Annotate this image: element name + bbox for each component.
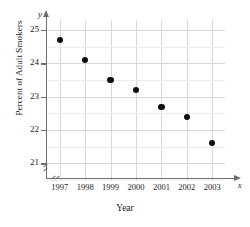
gridline-horizontal-minor [47,180,225,181]
gridline-vertical [136,20,137,180]
y-axis-tick [41,163,47,164]
gridline-horizontal-major [47,30,225,31]
y-axis-tick [41,130,47,131]
gridline-horizontal-major [47,97,225,98]
gridline-vertical [85,20,86,180]
gridline-horizontal-major [47,63,225,64]
x-axis-line [46,178,236,179]
y-axis-tick-label: 25 [24,24,39,34]
data-point [107,77,113,83]
x-axis-tick-label: 2003 [197,182,227,192]
data-point [184,114,190,120]
plot-area [47,20,225,180]
gridline-vertical [187,20,188,180]
data-point [57,37,63,43]
gridline-horizontal-minor [47,147,225,148]
y-axis-tick [41,63,47,64]
y-axis-tick [41,97,47,98]
x-axis-variable-label: x [238,181,242,190]
y-axis-title: Percent of Adult Smokers [14,0,24,138]
y-axis-variable-label: y [38,9,42,19]
scatter-plot-figure: Percent of Adult Smokers Year y x 252423… [0,0,250,227]
gridline-vertical [161,20,162,180]
gridline-horizontal-major [47,130,225,131]
y-axis-tick-label: 21 [24,157,39,167]
x-axis-title: Year [0,203,250,213]
gridline-horizontal-minor [47,47,225,48]
y-axis-arrow-icon [43,10,49,17]
data-point [158,104,164,110]
x-axis-arrow-icon [234,175,241,181]
gridline-horizontal-minor [47,80,225,81]
y-axis-tick-label: 23 [24,91,39,101]
y-axis-tick-label: 22 [24,124,39,134]
y-axis-tick [41,30,47,31]
gridline-vertical [60,20,61,180]
gridline-vertical [212,20,213,180]
gridline-horizontal-minor [47,113,225,114]
gridline-vertical [111,20,112,180]
y-axis-tick-label: 24 [24,57,39,67]
gridline-horizontal-major [47,163,225,164]
